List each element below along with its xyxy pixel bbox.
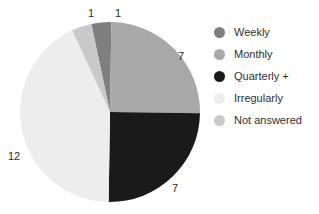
- slice-label-weekly: 1: [115, 8, 121, 19]
- legend-item-label: Monthly: [234, 49, 273, 60]
- legend-item-label: Quarterly +: [234, 71, 289, 82]
- circle-swatch: [214, 49, 225, 60]
- chart-legend: WeeklyMonthlyQuarterly +IrregularlyNot a…: [214, 26, 319, 127]
- legend-item[interactable]: Irregularly: [214, 92, 319, 105]
- circle-swatch: [214, 27, 225, 38]
- legend-item[interactable]: Monthly: [214, 48, 319, 61]
- legend-item[interactable]: Quarterly +: [214, 70, 319, 83]
- pie-chart-plot-area: 1 1 7 7 12: [0, 0, 210, 214]
- legend-item[interactable]: Weekly: [214, 26, 319, 39]
- pie-slice[interactable]: [109, 112, 200, 202]
- circle-swatch: [214, 71, 225, 82]
- pie-chart-svg: [0, 0, 210, 214]
- slice-label-not-answered: 1: [88, 8, 94, 19]
- pie-chart-figure: 1 1 7 7 12 WeeklyMonthlyQuarterly +Irreg…: [0, 0, 319, 214]
- slice-label-irregularly: 12: [8, 151, 20, 162]
- circle-swatch: [214, 115, 225, 126]
- legend-item-label: Irregularly: [234, 93, 283, 104]
- slice-label-monthly: 7: [178, 51, 184, 62]
- pie-slice-group: [20, 22, 200, 202]
- slice-label-quarterly: 7: [172, 183, 178, 194]
- pie-slice[interactable]: [110, 22, 200, 113]
- legend-item-label: Not answered: [234, 115, 302, 126]
- legend-item-label: Weekly: [234, 27, 270, 38]
- legend-item[interactable]: Not answered: [214, 114, 319, 127]
- circle-swatch: [214, 93, 225, 104]
